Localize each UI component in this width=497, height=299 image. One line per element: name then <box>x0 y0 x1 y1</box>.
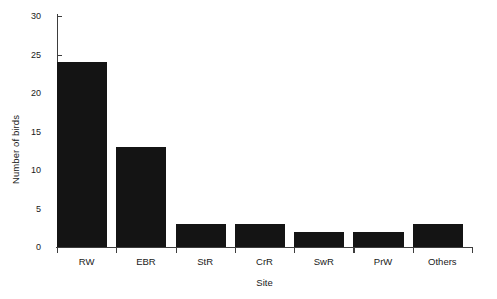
bar <box>294 232 344 247</box>
bars-group <box>57 16 472 247</box>
x-tick-mark <box>176 248 177 253</box>
x-axis-line <box>56 247 473 248</box>
y-axis-label: Number of birds <box>8 0 22 299</box>
x-tick-mark <box>116 248 117 253</box>
bar <box>176 224 226 247</box>
bar <box>353 232 403 247</box>
y-tick-label: 10 <box>17 165 41 175</box>
bar-chart: Number of birds 051015202530 RWEBRStRCrR… <box>0 0 497 299</box>
bar <box>57 62 107 247</box>
y-tick-label: 5 <box>17 204 41 214</box>
y-tick-label: 15 <box>17 127 41 137</box>
x-tick-label: SwR <box>294 256 353 267</box>
x-tick-label: Others <box>413 256 472 267</box>
x-tick-label: StR <box>176 256 235 267</box>
bar <box>116 147 166 247</box>
bar <box>413 224 463 247</box>
y-tick-label: 25 <box>17 50 41 60</box>
x-axis-label: Site <box>57 277 472 288</box>
x-tick-mark <box>413 248 414 253</box>
bar <box>235 224 285 247</box>
y-tick-label: 20 <box>17 88 41 98</box>
y-tick-label: 0 <box>17 242 41 252</box>
x-tick-mark <box>294 248 295 253</box>
x-tick-label: CrR <box>235 256 294 267</box>
y-tick-label: 30 <box>17 11 41 21</box>
x-tick-label: PrW <box>353 256 412 267</box>
x-tick-mark <box>472 248 473 253</box>
x-tick-mark <box>235 248 236 253</box>
x-tick-label: RW <box>57 256 116 267</box>
x-tick-label: EBR <box>116 256 175 267</box>
x-tick-mark <box>57 248 58 253</box>
x-tick-mark <box>353 248 354 253</box>
